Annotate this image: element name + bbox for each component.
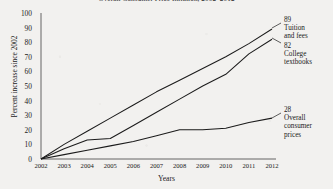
- annotation-label-line1: Tuition: [284, 24, 308, 32]
- annotation-value: 28: [284, 106, 312, 114]
- line-college-textbooks: [41, 39, 272, 159]
- annotation-label-line2: textbooks: [284, 58, 312, 66]
- line-overall-consumer-prices: [41, 118, 272, 159]
- annotation-overall-consumer-prices: 28 Overall consumer prices: [284, 106, 312, 139]
- leader-line-textbooks: [272, 38, 281, 43]
- chart-figure: Overall Consumer Price Inflation, 2002–2…: [0, 0, 333, 189]
- annotation-value: 82: [284, 42, 312, 50]
- annotation-label-line3: prices: [284, 131, 312, 139]
- leader-line-overall: [272, 113, 281, 118]
- annotation-label-line1: Overall: [284, 114, 312, 122]
- leader-line-tuition: [272, 23, 281, 28]
- annotation-college-textbooks: 82 College textbooks: [284, 42, 312, 67]
- line-tuition-and-fees: [41, 29, 272, 159]
- annotation-tuition-and-fees: 89 Tuition and fees: [284, 16, 308, 41]
- annotation-label-line2: consumer: [284, 122, 312, 130]
- annotation-label-line2: and fees: [284, 32, 308, 40]
- annotation-label-line1: College: [284, 50, 312, 58]
- annotation-value: 89: [284, 16, 308, 24]
